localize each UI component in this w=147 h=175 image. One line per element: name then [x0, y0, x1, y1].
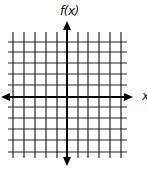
- right-arrow-icon: [124, 93, 133, 101]
- x-axis-label: x: [142, 89, 147, 103]
- grid-graph: [0, 0, 147, 175]
- down-arrow-icon: [63, 157, 71, 166]
- up-arrow-icon: [63, 21, 71, 30]
- left-arrow-icon: [1, 93, 10, 101]
- axes: [1, 21, 133, 166]
- y-axis-label: f(x): [60, 4, 79, 18]
